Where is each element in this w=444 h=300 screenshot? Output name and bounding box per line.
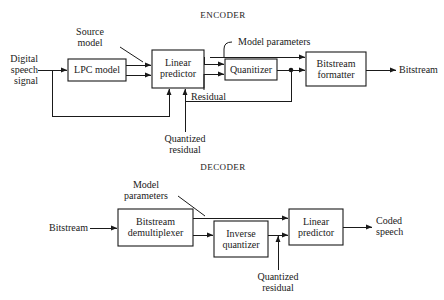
encoder-quantized-residual-line1: Quantized xyxy=(150,133,220,144)
encoder-source-model-line1: Source xyxy=(62,26,118,37)
encoder-section-title: ENCODER xyxy=(178,10,268,20)
decoder-demux-box xyxy=(118,209,193,246)
decoder-quantized-residual-line1: Quantized xyxy=(243,271,313,282)
encoder-quantizer-box xyxy=(225,59,277,80)
encoder-model-parameters-annotation: Model parameters xyxy=(238,36,310,47)
figure-canvas: ENCODER DECODER LPC model Linear predict… xyxy=(0,0,444,300)
decoder-output-label-line2: speech xyxy=(376,226,403,237)
encoder-input-label-line2: speech xyxy=(0,64,38,75)
encoder-linear-predictor-box xyxy=(152,50,204,88)
encoder-residual-annotation: Residual xyxy=(191,91,226,102)
decoder-model-parameters-line1: Model xyxy=(110,179,182,190)
encoder-bitstream-formatter-box xyxy=(306,52,366,86)
encoder-input-label-line3: signal xyxy=(0,75,38,86)
encoder-model-parameters-leader xyxy=(224,42,232,57)
encoder-source-model-annotation: Source model xyxy=(62,26,118,48)
encoder-lpc-model-box xyxy=(68,59,126,81)
encoder-input-label-line1: Digital xyxy=(0,53,38,64)
decoder-output-label: Coded speech xyxy=(376,215,403,237)
encoder-output-label: Bitstream xyxy=(399,64,438,75)
decoder-model-parameters-annotation: Model parameters xyxy=(110,179,182,201)
decoder-input-label: Bitstream xyxy=(34,222,88,233)
encoder-input-label: Digital speech signal xyxy=(0,53,38,86)
decoder-quantized-residual-annotation: Quantized residual xyxy=(243,271,313,293)
encoder-source-model-line2: model xyxy=(62,37,118,48)
decoder-output-label-line1: Coded xyxy=(376,215,403,226)
encoder-quantized-residual-line2: residual xyxy=(150,144,220,155)
decoder-quantized-residual-line2: residual xyxy=(243,282,313,293)
encoder-quantized-residual-annotation: Quantized residual xyxy=(150,133,220,155)
decoder-inverse-quantizer-box xyxy=(214,221,268,257)
decoder-section-title: DECODER xyxy=(178,162,268,172)
decoder-model-parameters-line2: parameters xyxy=(110,190,182,201)
decoder-linear-predictor-box xyxy=(289,209,343,245)
